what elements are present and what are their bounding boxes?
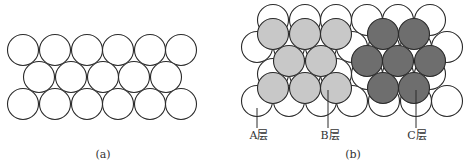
layer-b-sphere: [306, 46, 337, 77]
panel-b-caption: (b): [345, 149, 361, 161]
sphere-circle: [40, 89, 71, 120]
sphere-circle: [72, 35, 103, 66]
layer-b-sphere: [290, 73, 321, 104]
sphere-circle: [166, 89, 197, 120]
sphere-circle: [72, 89, 103, 120]
sphere-circle: [119, 62, 150, 93]
layer-b-sphere: [321, 19, 352, 50]
sphere-circle: [103, 89, 134, 120]
layer-b-sphere: [274, 46, 305, 77]
label-layer-a: A层: [250, 130, 269, 142]
sphere-circle: [8, 89, 39, 120]
sphere-circle: [166, 35, 197, 66]
sphere-circle: [56, 62, 87, 93]
sphere-circle: [24, 62, 55, 93]
layer-b-sphere: [290, 19, 321, 50]
layer-c-sphere: [399, 19, 430, 50]
panel-a-single-layer: [8, 35, 197, 120]
layer-b-sphere: [258, 19, 289, 50]
sphere-circle: [88, 62, 119, 93]
sphere-circle: [151, 62, 182, 93]
layer-c-sphere: [399, 73, 430, 104]
layer-c-sphere: [368, 19, 399, 50]
sphere-circle: [135, 35, 166, 66]
sphere-circle: [135, 89, 166, 120]
layer-a-sphere: [432, 86, 463, 117]
sphere-circle: [40, 35, 71, 66]
layer-c-sphere: [352, 46, 383, 77]
layer-c-sphere: [383, 46, 414, 77]
layer-c-sphere: [368, 73, 399, 104]
close-packing-diagram: [0, 0, 468, 167]
sphere-circle: [103, 35, 134, 66]
panel-a-caption: (a): [95, 149, 110, 161]
layer-c-sphere: [415, 46, 446, 77]
sphere-circle: [8, 35, 39, 66]
layer-b-sphere: [321, 73, 352, 104]
layer-b-sphere: [258, 73, 289, 104]
label-layer-b: B层: [320, 130, 339, 142]
label-layer-c: C层: [407, 130, 426, 142]
